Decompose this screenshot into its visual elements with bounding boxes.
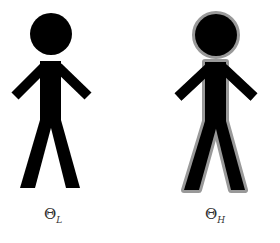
subscript-l: L [56, 215, 62, 225]
subscript-h: H [217, 215, 225, 225]
stick-figure-high-icon [178, 14, 254, 190]
stick-figures [0, 0, 280, 243]
theta-h-label: ΘH [205, 205, 225, 225]
stick-figure-low-icon [15, 13, 88, 188]
theta-symbol: Θ [44, 205, 56, 223]
theta-l-label: ΘL [44, 205, 62, 225]
theta-symbol: Θ [205, 205, 217, 223]
